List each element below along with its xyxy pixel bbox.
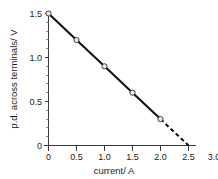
data-point (102, 64, 107, 69)
chart-figure: 0 0.5 1.0 1.5 0 0.5 1.0 1.5 2.0 2.5 3.0 … (0, 0, 218, 179)
chart-canvas: 0 0.5 1.0 1.5 0 0.5 1.0 1.5 2.0 2.5 3.0 … (0, 0, 218, 179)
x-tick-label: 1.5 (126, 152, 139, 162)
x-tick-label: 2.5 (182, 152, 195, 162)
y-tick-label: 1.5 (29, 9, 42, 19)
y-axis-tick-labels: 0 0.5 1.0 1.5 (29, 9, 42, 151)
x-tick-label: 2.0 (154, 152, 167, 162)
x-tick-label: 0 (46, 152, 51, 162)
y-tick-label: 0.5 (29, 97, 42, 107)
x-tick-label: 1.0 (98, 152, 111, 162)
data-line-dashed-extrapolation (161, 119, 189, 145)
y-axis-major-ticks (45, 14, 49, 146)
x-axis-tick-labels: 0 0.5 1.0 1.5 2.0 2.5 3.0 (46, 152, 218, 162)
x-axis-major-ticks (49, 146, 189, 151)
data-point (46, 11, 51, 16)
axis-group (44, 13, 196, 146)
data-point (158, 117, 163, 122)
y-tick-label: 1.0 (29, 53, 42, 63)
x-tick-label: 3.0 (208, 152, 218, 162)
x-axis-title: current/ A (94, 165, 135, 176)
x-tick-label: 0.5 (70, 152, 83, 162)
y-axis-title: p.d. across terminals/ V (8, 29, 19, 129)
y-tick-label: 0 (37, 141, 42, 151)
data-point (130, 90, 135, 95)
data-point (74, 37, 79, 42)
